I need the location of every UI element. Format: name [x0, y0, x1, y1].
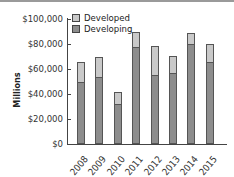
y-tick-label: $40,000: [28, 89, 63, 99]
bar-2012: [151, 46, 159, 144]
bar-segment-developing: [114, 104, 122, 144]
bar-segment-developed: [95, 57, 103, 78]
bar-segment-developed: [151, 46, 159, 76]
x-tick-label: 2011: [123, 154, 145, 177]
x-axis: [67, 144, 227, 145]
bar-segment-developing: [187, 44, 195, 144]
x-tick-label: 2008: [68, 154, 90, 177]
y-tick: [67, 119, 71, 120]
x-tick-label: 2015: [196, 154, 218, 177]
y-axis: [67, 18, 68, 145]
bar-2013: [169, 56, 177, 144]
stacked-bar-chart: Millions $100,000 $80,000 $60,000 $40,00…: [0, 0, 234, 177]
bar-segment-developing: [151, 75, 159, 144]
legend-label: Developing: [84, 24, 132, 34]
y-axis-title: Millions: [12, 70, 22, 110]
y-tick-label: $80,000: [28, 39, 63, 49]
bar-2010: [114, 92, 122, 144]
bar-2015: [206, 44, 214, 144]
bar-segment-developing: [77, 82, 85, 145]
y-tick: [67, 94, 71, 95]
bar-2014: [187, 33, 195, 144]
y-tick-label: $100,000: [22, 14, 63, 24]
y-tick: [67, 44, 71, 45]
x-tick-label: 2014: [178, 154, 200, 177]
x-tick-label: 2009: [86, 154, 108, 177]
y-tick-label: $0: [52, 139, 63, 149]
y-tick-label: $60,000: [28, 64, 63, 74]
legend-item-developed: Developed: [72, 12, 132, 23]
legend-swatch-developing: [72, 25, 80, 33]
y-tick: [67, 69, 71, 70]
legend-label: Developed: [84, 13, 130, 23]
bar-segment-developed: [77, 62, 85, 82]
bar-2011: [132, 32, 140, 144]
y-tick: [67, 19, 71, 20]
x-tick-label: 2010: [104, 154, 126, 177]
bar-segment-developed: [132, 32, 140, 48]
bar-2009: [95, 57, 103, 144]
bar-segment-developed: [169, 56, 177, 74]
bar-segment-developed: [206, 44, 214, 63]
legend-item-developing: Developing: [72, 23, 132, 34]
legend: Developed Developing: [72, 12, 132, 34]
bar-segment-developing: [132, 47, 140, 144]
bar-segment-developing: [206, 62, 214, 144]
bar-segment-developing: [169, 73, 177, 144]
legend-swatch-developed: [72, 14, 80, 22]
y-tick-label: $20,000: [28, 114, 63, 124]
x-tick-label: 2012: [141, 154, 163, 177]
x-tick-label: 2013: [160, 154, 182, 177]
bar-segment-developing: [95, 77, 103, 144]
bar-2008: [77, 62, 85, 144]
